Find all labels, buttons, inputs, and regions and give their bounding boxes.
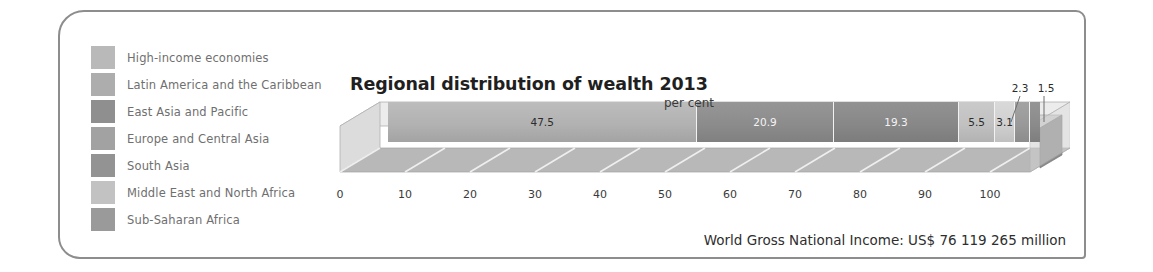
chart-area: Regional distribution of wealth 2013 [318, 74, 1070, 244]
bar-segment[interactable] [1015, 102, 1030, 142]
legend-item-label: Sub-Saharan Africa [127, 213, 240, 227]
bar-segment-value: 19.3 [884, 116, 907, 128]
axis-tick-label: 30 [528, 188, 542, 201]
bar-segment[interactable]: 20.9 [697, 102, 833, 142]
figure-frame: High-income economies Latin America and … [58, 10, 1086, 259]
axis-tick-label: 70 [788, 188, 802, 201]
legend-item-label: Latin America and the Caribbean [127, 78, 322, 92]
bar-segment-value: 3.1 [996, 116, 1013, 128]
axis-tick-label: 10 [398, 188, 412, 201]
axis-tick-label: 90 [918, 188, 932, 201]
legend-item-label: South Asia [127, 159, 190, 173]
axis-tick-label: 20 [463, 188, 477, 201]
axis-tick-label: 50 [658, 188, 672, 201]
bar-segment-value: 20.9 [753, 116, 776, 128]
legend-item: Middle East and North Africa [90, 179, 340, 206]
bar-segment-value: 5.5 [968, 116, 985, 128]
legend-swatch-icon [90, 99, 116, 124]
legend-swatch-icon [90, 45, 116, 70]
bar-segment[interactable]: 5.5 [959, 102, 995, 142]
axis-tick-label: 40 [593, 188, 607, 201]
legend-swatch-icon [90, 72, 116, 97]
legend-item: South Asia [90, 152, 340, 179]
bar-segment[interactable]: 19.3 [834, 102, 960, 142]
axis-tick-label: 60 [723, 188, 737, 201]
chart-legend: High-income economies Latin America and … [90, 44, 340, 233]
axis-tick-label: 0 [337, 188, 344, 201]
legend-item: Latin America and the Caribbean [90, 71, 340, 98]
bar-segment[interactable]: 47.5 [388, 102, 697, 142]
legend-swatch-icon [90, 180, 116, 205]
chart-footnote: World Gross National Income: US$ 76 119 … [704, 232, 1066, 248]
legend-swatch-icon [90, 207, 116, 232]
bar-segment-value: 47.5 [531, 116, 554, 128]
callout-label-2-3: 2.3 [1012, 82, 1029, 94]
x-axis: 0 10 20 30 40 50 60 70 80 90 100 [318, 184, 1070, 210]
axis-tick-label: 100 [980, 188, 1001, 201]
legend-item-label: East Asia and Pacific [127, 105, 248, 119]
legend-item: Sub-Saharan Africa [90, 206, 340, 233]
callout-label-1-5: 1.5 [1038, 82, 1055, 94]
legend-swatch-icon [90, 126, 116, 151]
legend-item-label: Europe and Central Asia [127, 132, 269, 146]
bar-segment[interactable] [1030, 102, 1040, 142]
legend-item-label: Middle East and North Africa [127, 186, 295, 200]
legend-item-label: High-income economies [127, 51, 269, 65]
axis-title: per cent [664, 96, 714, 110]
legend-item: High-income economies [90, 44, 340, 71]
legend-item: East Asia and Pacific [90, 98, 340, 125]
legend-item: Europe and Central Asia [90, 125, 340, 152]
bar-segment[interactable]: 3.1 [995, 102, 1015, 142]
chart-title: Regional distribution of wealth 2013 [350, 74, 708, 94]
legend-swatch-icon [90, 153, 116, 178]
axis-tick-label: 80 [853, 188, 867, 201]
